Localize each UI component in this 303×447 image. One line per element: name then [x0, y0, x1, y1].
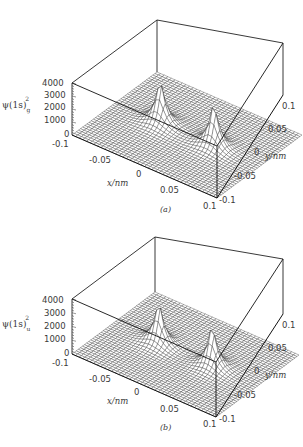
z-tick-0: 0 — [64, 349, 69, 358]
y-tick-0: 0 — [254, 367, 259, 376]
x-tick-0: 0 — [136, 170, 141, 179]
z-tick-2000: 2000 — [44, 322, 66, 331]
z-tick-3000: 3000 — [44, 309, 66, 318]
y-tick-0: 0 — [254, 148, 259, 157]
panel-a: 4000 3000 2000 1000 0 ψ(1s)g2 -0.1 -0.05… — [0, 0, 303, 223]
x-axis-label: x/nm — [107, 179, 128, 188]
x-tick-0.1: 0.1 — [203, 420, 217, 429]
panel-b: 4000 3000 2000 1000 0 ψ(1s)u2 -0.1 -0.05… — [0, 224, 303, 447]
z-tick-0: 0 — [64, 130, 69, 139]
x-tick-neg0.05: -0.05 — [89, 375, 111, 384]
x-axis-label: x/nm — [107, 397, 128, 406]
x-tick-neg0.1: -0.1 — [52, 140, 69, 149]
y-tick-0.05: 0.05 — [268, 125, 287, 134]
x-tick-0.05: 0.05 — [160, 405, 179, 414]
x-tick-neg0.05: -0.05 — [89, 156, 111, 165]
z-tick-3000: 3000 — [44, 91, 66, 100]
y-axis-label: y/nm — [265, 371, 286, 380]
panel-caption-b: (b) — [160, 424, 171, 432]
y-tick-neg0.1: -0.1 — [219, 196, 236, 205]
z-tick-1000: 1000 — [44, 335, 66, 344]
z-tick-1000: 1000 — [44, 116, 66, 125]
z-tick-4000: 4000 — [42, 296, 64, 305]
y-tick-neg0.1: -0.1 — [219, 415, 236, 424]
y-tick-neg0.05: -0.05 — [234, 172, 256, 181]
x-tick-0.05: 0.05 — [160, 186, 179, 195]
z-axis-label: ψ(1s)g2 — [2, 99, 34, 112]
y-axis-label: y/nm — [265, 152, 286, 161]
z-tick-4000: 4000 — [42, 79, 64, 88]
x-tick-0.1: 0.1 — [203, 202, 217, 211]
y-tick-neg0.05: -0.05 — [234, 391, 256, 400]
y-tick-0.05: 0.05 — [268, 344, 287, 353]
x-tick-0: 0 — [134, 388, 139, 397]
y-tick-0.1: 0.1 — [282, 102, 296, 111]
z-tick-2000: 2000 — [44, 103, 66, 112]
y-tick-0.1: 0.1 — [282, 321, 296, 330]
z-axis-label: ψ(1s)u2 — [2, 318, 34, 331]
panel-caption-a: (a) — [160, 206, 171, 214]
x-tick-neg0.1: -0.1 — [52, 359, 69, 368]
